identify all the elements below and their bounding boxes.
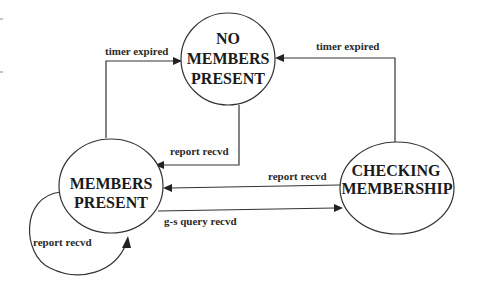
state-label-line: MEMBERS [187,50,270,67]
edge-label: report recvd [170,145,229,157]
edge-label: timer expired [105,45,168,57]
edge-no-members-to-members: report recvd [155,105,239,169]
arrowhead-icon [275,54,284,62]
edge-members-to-checking: g-s query recvd [158,204,343,227]
edge-label: report recvd [268,170,327,182]
state-label-line: PRESENT [191,70,265,87]
arrowhead-icon [334,204,343,212]
state-label-line: CHECKING [352,162,441,179]
state-diagram: timer expired timer expired report recvd… [0,0,480,289]
state-label-line: MEMBERS [70,175,153,192]
state-label-line: PRESENT [74,194,148,211]
edge-label: g-s query recvd [164,215,237,227]
edge-checking-to-members: report recvd [163,170,340,192]
state-label-line: MEMBERSHIP [341,180,452,197]
state-label-line: NO [216,30,240,47]
edge-checking-to-no-members: timer expired [275,40,395,142]
arrowhead-icon [163,184,172,192]
edge-members-to-no-members: timer expired [105,45,182,138]
edge-label: report recvd [33,236,92,248]
state-members-present: MEMBERS PRESENT [59,139,163,233]
arrowhead-icon [122,236,131,248]
state-checking-membership: CHECKING MEMBERSHIP [340,142,454,234]
state-no-members-present: NO MEMBERS PRESENT [181,13,275,105]
edge-label: timer expired [316,40,379,52]
